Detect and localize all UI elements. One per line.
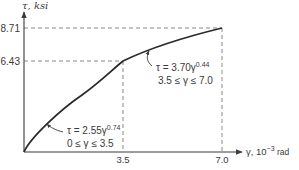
x-axis-label-suffix: rad	[275, 147, 290, 157]
annotation-2-range: 3.5 ≤ γ ≤ 7.0	[158, 75, 213, 86]
stress-strain-chart: τ, ksi 8.71 6.43 3.5 7.0 γ, 10−3 rad τ =…	[0, 0, 299, 170]
x-axis-label: γ, 10−3 rad	[246, 145, 290, 157]
curve-segment-2	[123, 28, 222, 61]
annotation-arrow-1	[47, 124, 63, 132]
x-axis-label-exp: −3	[267, 145, 275, 152]
annotation-1-range: 0 ≤ γ ≤ 3.5	[67, 138, 114, 149]
reference-lines	[24, 28, 222, 152]
x-tick-3-5: 3.5	[116, 154, 129, 165]
annotation-1-equation: τ = 2.55γ0.74	[67, 124, 121, 136]
annotation-arrow-2	[147, 51, 152, 66]
y-tick-6-43: 6.43	[1, 56, 21, 67]
annotation-2-equation: τ = 3.70γ0.44	[156, 61, 210, 73]
y-axis-label: τ, ksi	[22, 0, 48, 11]
y-tick-8-71: 8.71	[1, 23, 21, 34]
x-axis-label-prefix: γ, 10	[246, 146, 267, 157]
x-tick-7-0: 7.0	[215, 154, 228, 165]
